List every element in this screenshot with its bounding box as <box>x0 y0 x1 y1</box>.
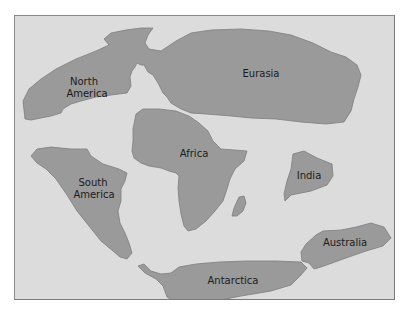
antarctica-label: Antarctica <box>208 275 259 286</box>
australia-label: Australia <box>323 237 367 248</box>
eurasia-label: Eurasia <box>242 68 279 79</box>
map-frame: North America Eurasia Africa South Ameri… <box>14 15 395 300</box>
north-america-label-line2: America <box>66 88 107 99</box>
south-america-label-line2: America <box>73 189 114 200</box>
south-america-landmass <box>31 147 132 259</box>
madagascar-landmass <box>232 196 246 216</box>
africa-label: Africa <box>180 148 209 159</box>
africa-landmass <box>132 109 247 231</box>
continent-map: North America Eurasia Africa South Ameri… <box>15 16 395 300</box>
north-america-label-line1: North <box>70 76 98 87</box>
south-america-label-line1: South <box>78 177 107 188</box>
india-label: India <box>297 170 322 181</box>
